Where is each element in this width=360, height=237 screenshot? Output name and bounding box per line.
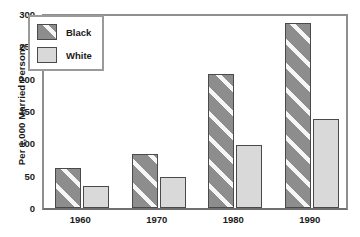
bar-white-1960	[83, 186, 109, 208]
bar-black-1980	[208, 74, 234, 209]
bar-black-1960	[55, 168, 81, 208]
y-axis-tick-label: 200	[19, 74, 35, 85]
y-axis-tick-label: 100	[19, 138, 35, 149]
legend-item-black: Black	[37, 23, 91, 41]
y-axis-tick-label: 50	[24, 171, 35, 182]
chart-legend: Black White	[28, 15, 104, 71]
legend-swatch-white-icon	[37, 47, 57, 63]
bar-black-1990	[285, 23, 311, 208]
legend-swatch-black-icon	[37, 24, 57, 40]
bar-white-1990	[313, 119, 339, 208]
x-axis-tick-label: 1960	[70, 214, 91, 225]
bar-white-1980	[236, 145, 262, 208]
legend-label-white: White	[66, 50, 92, 61]
x-axis-tick-label: 1970	[146, 214, 167, 225]
y-axis-tick-label: 0	[30, 203, 35, 214]
bar-white-1970	[160, 177, 186, 208]
bar-black-1970	[132, 154, 158, 208]
x-axis-tick-label: 1990	[299, 214, 320, 225]
legend-item-white: White	[37, 46, 92, 64]
x-axis-tick-label: 1980	[223, 214, 244, 225]
legend-label-black: Black	[66, 27, 91, 38]
y-axis-tick-label: 150	[19, 106, 35, 117]
chart-figure: Per 1,000 Married Persons 05010015020025…	[0, 0, 360, 237]
